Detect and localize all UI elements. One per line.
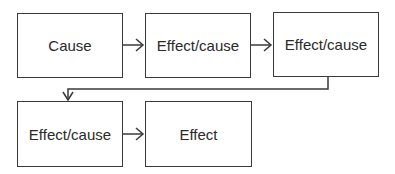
node-effect: Effect (145, 101, 252, 167)
node-label: Effect/cause (29, 126, 111, 143)
node-effect-cause-2: Effect/cause (273, 12, 379, 77)
node-effect-cause-3: Effect/cause (17, 101, 123, 167)
arrow-effect-cause-1-to-effect-cause-2 (250, 39, 271, 51)
arrow-effect-cause-2-to-effect-cause-3 (63, 76, 328, 100)
arrow-cause-to-effect-cause-1 (122, 39, 143, 51)
node-effect-cause-1: Effect/cause (145, 13, 251, 78)
arrow-effect-cause-3-to-effect (122, 128, 143, 140)
node-label: Effect (179, 126, 217, 143)
node-label: Cause (48, 37, 91, 54)
node-cause: Cause (17, 13, 123, 78)
node-label: Effect/cause (157, 37, 239, 54)
node-label: Effect/cause (285, 36, 367, 53)
